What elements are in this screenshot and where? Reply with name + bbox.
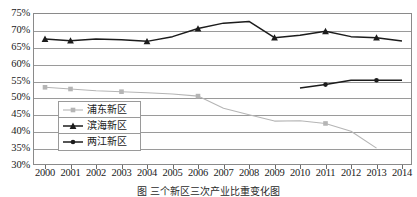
y-tick-label: 65% <box>11 42 30 53</box>
legend-item-liangjiang[interactable]: 两江新区 <box>59 134 140 150</box>
y-tick-label: 60% <box>11 58 30 69</box>
x-tick-label: 2005 <box>163 168 183 179</box>
y-tick-label: 55% <box>11 75 30 86</box>
legend-swatch-triangle-icon <box>62 120 84 132</box>
y-axis: 75%70%65%60%55%50%45%40%35%30% <box>0 0 33 197</box>
y-tick-label: 35% <box>11 143 30 154</box>
x-tick-label: 2014 <box>392 168 412 179</box>
x-tick-label: 2013 <box>367 168 387 179</box>
x-tick-label: 2000 <box>35 168 55 179</box>
series-滨海新区 <box>42 21 402 44</box>
x-tick-label: 2006 <box>188 168 208 179</box>
x-tick-label: 2007 <box>214 168 234 179</box>
x-axis: 2000200120022003200420052006200720082009… <box>33 168 412 184</box>
legend-item-pudong[interactable]: 浦东新区 <box>59 102 140 118</box>
legend-item-binhai[interactable]: 滨海新区 <box>59 118 140 134</box>
legend-swatch-square-icon <box>62 104 84 116</box>
y-tick-label: 30% <box>11 160 30 171</box>
legend-label: 两江新区 <box>87 137 127 147</box>
y-tick-label: 50% <box>11 92 30 103</box>
x-tick-label: 2010 <box>290 168 310 179</box>
series-line <box>45 21 402 41</box>
data-point-marker <box>323 121 328 126</box>
data-point-marker <box>68 87 73 92</box>
x-tick-label: 2004 <box>137 168 157 179</box>
x-tick-label: 2001 <box>61 168 81 179</box>
x-tick-label: 2009 <box>265 168 285 179</box>
chart-legend: 浦东新区 滨海新区 两江新区 <box>58 101 141 151</box>
y-tick-label: 75% <box>11 8 30 19</box>
x-tick-label: 2008 <box>239 168 259 179</box>
y-tick-label: 70% <box>11 25 30 36</box>
legend-label: 滨海新区 <box>87 121 127 131</box>
data-point-marker <box>374 78 379 83</box>
data-point-marker <box>119 89 124 94</box>
x-tick-label: 2011 <box>316 168 335 179</box>
y-tick-label: 45% <box>11 109 30 120</box>
data-point-marker <box>323 82 328 87</box>
x-tick-label: 2003 <box>112 168 132 179</box>
x-tick-label: 2002 <box>86 168 106 179</box>
legend-label: 浦东新区 <box>87 105 127 115</box>
data-point-marker <box>43 85 48 90</box>
line-chart-figure: 75%70%65%60%55%50%45%40%35%30% 200020012… <box>0 0 417 197</box>
series-两江新区 <box>300 78 402 88</box>
y-tick-label: 40% <box>11 126 30 137</box>
x-tick-label: 2012 <box>341 168 361 179</box>
figure-caption: 图 三个新区三次产业比重变化图 <box>0 186 417 197</box>
series-line <box>300 80 402 88</box>
data-point-marker <box>196 94 201 99</box>
legend-swatch-circle-icon <box>62 136 84 148</box>
